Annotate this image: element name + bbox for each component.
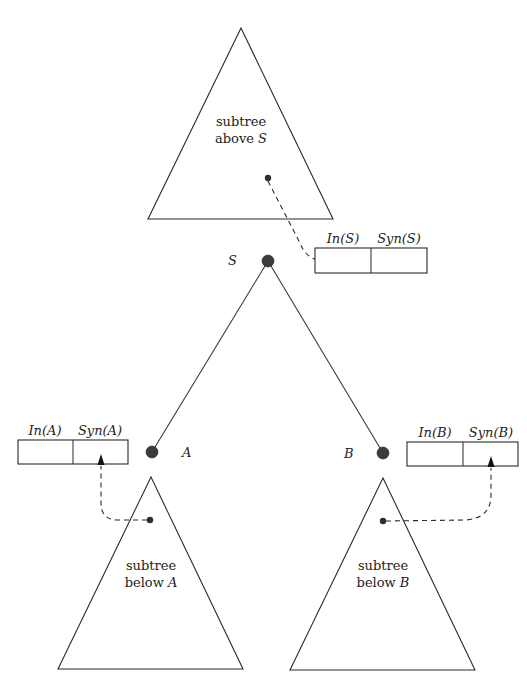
edge-s-b [268, 261, 383, 453]
node-b-label: B [343, 446, 354, 461]
attribute-flow-diagram: subtree above S In(S) Syn(S) S A B In(A)… [0, 0, 527, 690]
in-b-label: In(B) [417, 425, 451, 440]
subtree-below-b-label-line2: below B [357, 575, 410, 590]
attribute-box-s: In(S) Syn(S) [315, 231, 427, 273]
subtree-below-b: subtree below B [290, 478, 475, 670]
node-a [146, 446, 158, 458]
subtree-below-a-triangle [58, 477, 243, 669]
subtree-above-label-line1: subtree [216, 114, 266, 129]
attribute-box-b: In(B) Syn(B) [407, 425, 518, 466]
in-s-label: In(S) [326, 231, 360, 246]
subtree-above-dot [265, 175, 271, 181]
subtree-above-s: subtree above S [148, 28, 333, 219]
edge-s-a [152, 261, 268, 452]
node-s [262, 255, 274, 267]
syn-s-label: Syn(S) [377, 231, 421, 246]
subtree-below-b-triangle [290, 478, 475, 670]
subtree-below-a-dot [147, 517, 153, 523]
flow-to-syn-a [101, 466, 147, 520]
attribute-box-a: In(A) Syn(A) [18, 423, 128, 464]
subtree-below-a-label-line1: subtree [126, 558, 176, 573]
syn-a-label: Syn(A) [78, 423, 122, 438]
subtree-above-label-line2: above S [215, 131, 267, 146]
node-b [377, 447, 389, 459]
subtree-below-b-label-line1: subtree [358, 558, 408, 573]
subtree-below-a-label-line2: below A [125, 575, 178, 590]
node-s-label: S [228, 253, 237, 268]
subtree-below-a: subtree below A [58, 477, 243, 669]
flow-to-syn-b [386, 468, 491, 521]
syn-b-label: Syn(B) [469, 425, 513, 440]
node-a-label: A [181, 445, 191, 460]
in-a-label: In(A) [27, 423, 61, 438]
subtree-below-b-dot [380, 518, 386, 524]
